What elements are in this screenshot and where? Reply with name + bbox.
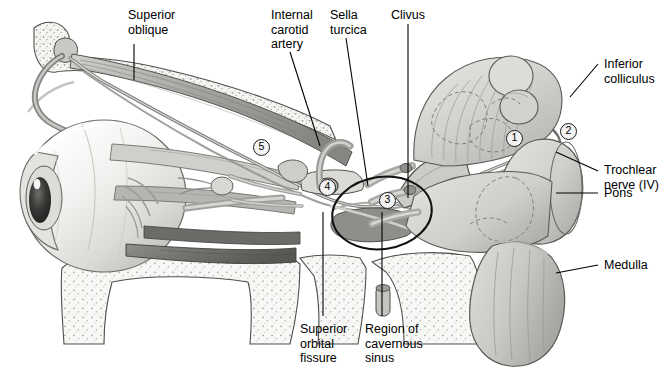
inferior-colliculus bbox=[500, 90, 538, 124]
corneal-highlight bbox=[34, 179, 41, 189]
ciliary-ganglion bbox=[211, 177, 233, 195]
superior-colliculus bbox=[489, 56, 533, 96]
label-clivus: Clivus bbox=[391, 8, 425, 23]
label-superior-orbital-fissure: Superior orbital fissure bbox=[300, 322, 347, 366]
anatomy-figure: Superior obliqueInternal carotid arteryS… bbox=[0, 0, 662, 369]
label-internal-carotid-artery: Internal carotid artery bbox=[271, 8, 313, 52]
label-pons: Pons bbox=[604, 186, 633, 201]
label-superior-oblique: Superior oblique bbox=[128, 8, 175, 37]
label-sella-turcica: Sella turcica bbox=[330, 8, 367, 37]
marker-3: 3 bbox=[379, 192, 396, 209]
marker-4: 4 bbox=[319, 179, 336, 196]
marker-2: 2 bbox=[560, 123, 577, 140]
marker-5: 5 bbox=[253, 139, 270, 156]
label-medulla: Medulla bbox=[604, 258, 648, 273]
label-inferior-colliculus: Inferior colliculus bbox=[604, 57, 655, 86]
marker-1: 1 bbox=[506, 130, 523, 147]
medulla bbox=[470, 242, 565, 366]
leader-sella-turcica bbox=[346, 38, 368, 186]
label-region-of-cavernous-sinus: Region of cavernous sinus bbox=[365, 322, 423, 366]
leader-medulla bbox=[556, 265, 598, 273]
leader-inferior-colliculus bbox=[570, 64, 598, 97]
